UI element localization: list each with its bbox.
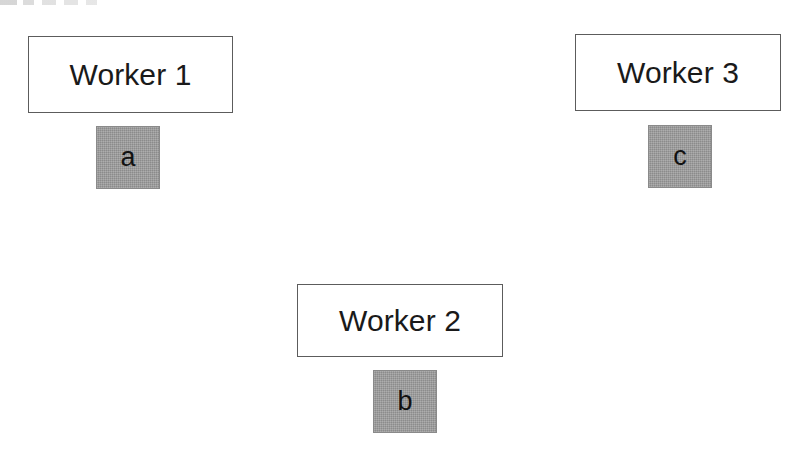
scan-artifact [0,0,112,5]
worker-label-3: Worker 3 [617,58,739,88]
worker-label-2: Worker 2 [339,306,461,336]
task-label-2: b [397,388,412,415]
task-box-1[interactable]: a [96,126,160,189]
task-label-3: c [673,143,687,170]
worker-label-1: Worker 1 [70,60,192,90]
diagram-canvas: Worker 1 a Worker 2 b Worker 3 c [0,0,808,453]
worker-box-2[interactable]: Worker 2 [297,284,503,357]
worker-box-3[interactable]: Worker 3 [575,34,781,111]
task-box-2[interactable]: b [373,370,437,433]
task-label-1: a [120,144,135,171]
task-box-3[interactable]: c [648,125,712,188]
worker-box-1[interactable]: Worker 1 [28,36,233,113]
